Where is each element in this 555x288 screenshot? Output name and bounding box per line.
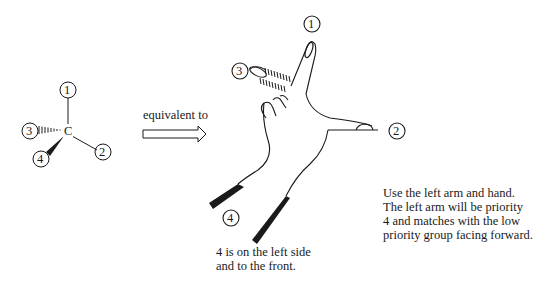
molecule-label-2: 2: [99, 145, 105, 159]
caption-line: 4 is on the left side: [216, 245, 311, 259]
forearm-right-stroke: [252, 196, 290, 244]
hand-label-2: 2: [393, 124, 399, 138]
equivalent-to-label: equivalent to: [143, 108, 208, 122]
molecule-label-4: 4: [37, 152, 43, 166]
forearm-left-stroke: [209, 184, 244, 209]
caption-line: and to the front.: [216, 259, 311, 273]
bond-2: [72, 136, 97, 150]
molecule-label-3: 3: [26, 124, 32, 138]
hand-label-4: 4: [227, 211, 233, 225]
hand-label-3: 3: [236, 64, 242, 78]
caption-line: 4 and matches with the low: [383, 214, 533, 228]
palm-right-edge: [286, 130, 328, 196]
curled-finger-3: [280, 96, 288, 101]
caption-line: Use the left arm and hand.: [383, 186, 533, 200]
equivalent-arrow: [143, 126, 206, 142]
caption-right-side: Use the left arm and hand. The left arm …: [383, 186, 533, 242]
caption-left-side: 4 is on the left side and to the front.: [216, 245, 311, 273]
hand-label-1: 1: [308, 17, 314, 31]
molecule-label-1: 1: [64, 83, 70, 97]
hashed-bond-3: [39, 126, 60, 134]
index-fingernail: [303, 41, 314, 58]
left-hand-drawing: [209, 16, 405, 244]
curled-finger-2: [273, 98, 286, 108]
caption-line: The left arm will be priority: [383, 200, 533, 214]
palm-top-edge: [306, 94, 372, 126]
palm-left-edge: [238, 103, 270, 184]
carbon-atom-label: C: [63, 124, 73, 138]
wedge-bond-4: [46, 136, 64, 156]
middle-finger-tip: [250, 67, 266, 70]
caption-line: priority group facing forward.: [383, 228, 533, 242]
